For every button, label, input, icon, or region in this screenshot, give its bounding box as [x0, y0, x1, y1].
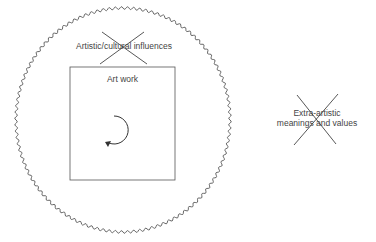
extra-artistic-label-line2: meanings and values [262, 118, 372, 128]
extra-artistic-label-line1: Extra-artistic [262, 108, 372, 118]
circular-arrow-icon [105, 116, 128, 147]
art-work-label: Art work [70, 74, 175, 84]
influences-label: Artistic/cultural influences [70, 41, 178, 51]
